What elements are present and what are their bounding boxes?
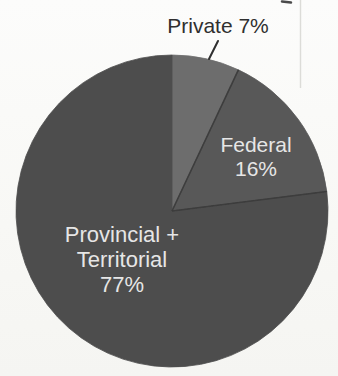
pie-slices-group: [16, 55, 328, 367]
pie-chart-svg: Private 7%Federal16%Provincial +Territor…: [0, 0, 338, 376]
pie-chart-figure: Private 7%Federal16%Provincial +Territor…: [0, 0, 338, 376]
outside-label-private: Private 7%: [167, 14, 269, 37]
label-leader-line: [209, 41, 218, 59]
scan-artifact-mark: [282, 2, 291, 3]
